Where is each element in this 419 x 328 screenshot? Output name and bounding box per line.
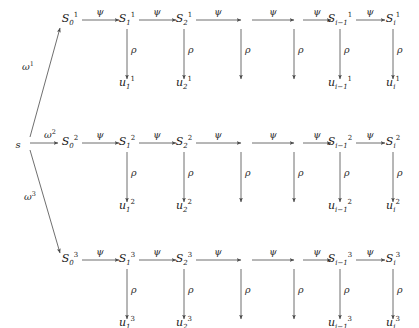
psi-label-row1-psi-3-4: ψ [269, 7, 276, 17]
rho-label-col-3-row1: ρ [245, 45, 251, 55]
psi-label-row1-psi-2-3: ψ [214, 7, 221, 17]
observation-node-col-1-row2: u12 [119, 200, 135, 211]
observation-node-col-6-row1: ui1 [386, 77, 400, 88]
rho-arrow-group [127, 29, 393, 319]
observation-node-col-5-row3: ui−13 [328, 317, 352, 328]
observation-node-col-2-row2: u22 [176, 200, 192, 211]
observation-node-col-2-row1: u21 [176, 77, 192, 88]
omega-1-arrow [30, 28, 60, 137]
rho-label-col-5-row3: ρ [344, 285, 350, 295]
diagram-canvas: sω1ω2ω3ψψψψψψS01S11ρu11S21ρu21ρρSi−11ρui… [0, 0, 419, 328]
psi-label-row1-psi-5-6: ψ [366, 7, 373, 17]
psi-label-row1-psi-0-1: ψ [96, 7, 103, 17]
state-node-col-5-row3: Si−13 [328, 253, 353, 264]
psi-label-row2-psi-4-5: ψ [313, 130, 320, 140]
rho-label-col-4-row2: ρ [298, 168, 304, 178]
psi-label-row2-psi-5-6: ψ [366, 130, 373, 140]
rho-label-col-5-row1: ρ [344, 45, 350, 55]
rho-label-col-1-row2: ρ [131, 168, 137, 178]
omega-1-label: ω1 [22, 62, 34, 72]
observation-node-col-5-row2: ui−12 [328, 200, 352, 211]
psi-label-row2-psi-1-2: ψ [153, 130, 160, 140]
psi-label-row1-psi-1-2: ψ [153, 7, 160, 17]
state-node-col-0-row2: S02 [62, 136, 78, 147]
observation-node-col-6-row3: ui3 [386, 317, 400, 328]
state-node-col-2-row3: S23 [176, 253, 192, 264]
observation-node-col-6-row2: ui2 [386, 200, 400, 211]
omega-2-label: ω2 [44, 130, 56, 140]
rho-label-col-6-row3: ρ [397, 285, 403, 295]
omega-3-arrow [30, 150, 60, 253]
rho-label-col-1-row1: ρ [131, 45, 137, 55]
rho-label-col-3-row3: ρ [245, 285, 251, 295]
rho-label-col-6-row2: ρ [397, 168, 403, 178]
omega-3-label: ω3 [24, 192, 36, 202]
observation-node-col-1-row3: u13 [119, 317, 135, 328]
rho-label-col-2-row3: ρ [188, 285, 194, 295]
state-node-col-0-row1: S01 [62, 13, 78, 24]
state-node-col-0-row3: S03 [62, 253, 78, 264]
observation-node-col-2-row3: u23 [176, 317, 192, 328]
psi-label-row2-psi-0-1: ψ [96, 130, 103, 140]
rho-label-col-3-row2: ρ [245, 168, 251, 178]
state-node-col-6-row3: Si3 [386, 253, 400, 264]
state-node-col-6-row1: Si1 [386, 13, 400, 24]
psi-label-row2-psi-3-4: ψ [269, 130, 276, 140]
rho-label-col-4-row3: ρ [298, 285, 304, 295]
diagram-lines-layer [0, 0, 419, 328]
state-node-col-5-row1: Si−11 [328, 13, 353, 24]
psi-label-row2-psi-2-3: ψ [214, 130, 221, 140]
rho-label-col-2-row1: ρ [188, 45, 194, 55]
branch-arrow-group [30, 28, 60, 253]
psi-label-row3-psi-4-5: ψ [313, 247, 320, 257]
state-node-col-1-row1: S11 [119, 13, 135, 24]
rho-label-col-6-row1: ρ [397, 45, 403, 55]
rho-label-col-2-row2: ρ [188, 168, 194, 178]
observation-node-col-1-row1: u11 [119, 77, 135, 88]
observation-node-col-5-row1: ui−11 [328, 77, 352, 88]
psi-label-row3-psi-0-1: ψ [96, 247, 103, 257]
psi-label-row3-psi-1-2: ψ [153, 247, 160, 257]
root-node-s: s [15, 140, 20, 150]
psi-label-row3-psi-5-6: ψ [366, 247, 373, 257]
state-node-col-1-row2: S12 [119, 136, 135, 147]
state-node-col-2-row2: S22 [176, 136, 192, 147]
psi-label-row1-psi-4-5: ψ [313, 7, 320, 17]
state-node-col-6-row2: Si2 [386, 136, 400, 147]
psi-label-row3-psi-2-3: ψ [214, 247, 221, 257]
psi-label-row3-psi-3-4: ψ [269, 247, 276, 257]
rho-label-col-4-row1: ρ [298, 45, 304, 55]
rho-label-col-1-row3: ρ [131, 285, 137, 295]
state-node-col-5-row2: Si−12 [328, 136, 353, 147]
rho-label-col-5-row2: ρ [344, 168, 350, 178]
state-node-col-1-row3: S13 [119, 253, 135, 264]
state-node-col-2-row1: S21 [176, 13, 192, 24]
